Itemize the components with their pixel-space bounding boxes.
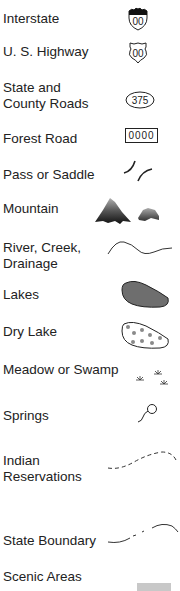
legend-label-meadow-swamp: Meadow or Swamp [3,362,119,378]
legend-label-us-highway: U. S. Highway [3,44,89,60]
legend-label-interstate: Interstate [3,11,59,27]
state-road-oval-icon: 375 [125,91,155,109]
legend-label-river-creek-drainage: River, Creek, Drainage [3,240,81,272]
legend-label-scenic-areas: Scenic Areas [3,569,82,585]
scenic-area-fill-icon [137,583,171,591]
state-road-oval-text: 375 [132,95,149,106]
legend-label-lakes: Lakes [3,287,39,303]
us-highway-shield-text: 00 [132,48,144,59]
state-boundary-line-icon [106,520,178,546]
river-line-icon [106,238,174,258]
forest-road-box-text: 0000 [128,130,154,141]
legend-label-indian-reservations: Indian Reservations [3,453,82,485]
lake-fill-icon [120,280,170,308]
legend-label-state-county-roads: State and County Roads [3,80,89,112]
spring-icon [136,403,160,425]
legend-label-pass-saddle: Pass or Saddle [3,167,95,183]
interstate-shield-icon: 00 [127,7,149,31]
legend-label-dry-lake: Dry Lake [3,324,57,340]
meadow-swamp-icon [136,368,170,390]
legend-label-state-boundary: State Boundary [3,533,96,549]
legend-label-springs: Springs [3,408,49,424]
us-highway-shield-icon: 00 [127,41,149,65]
forest-road-box-icon: 0000 [125,128,158,143]
pass-saddle-icon [122,157,156,183]
mountain-icon [93,196,167,226]
legend-label-mountain: Mountain [3,201,59,217]
interstate-shield-text: 00 [132,16,144,27]
dry-lake-dotted-icon [120,321,170,349]
legend-label-forest-road: Forest Road [3,131,77,147]
reservation-dashed-line-icon [106,446,178,472]
